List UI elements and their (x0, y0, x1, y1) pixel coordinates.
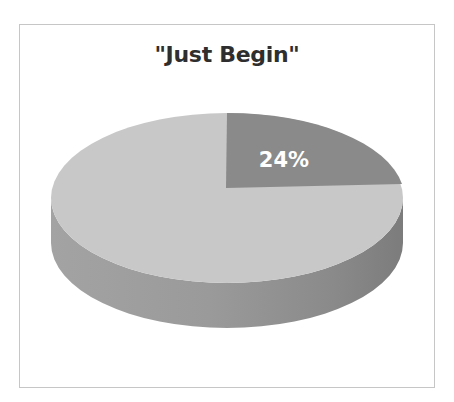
pie-chart (0, 0, 454, 402)
pie-slice-just-begin (226, 113, 402, 188)
slice-data-label: 24% (258, 148, 310, 172)
